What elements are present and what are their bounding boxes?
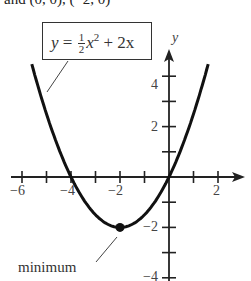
equation-label-box: y = 12x2 + 2x [42,22,152,60]
y-tick-label: −4 [143,269,158,281]
y-tick-label: 2 [151,119,158,135]
equation-leader-line [47,61,68,92]
minimum-label: minimum [18,259,76,276]
y-tick-label: 4 [151,77,158,93]
x-tick-label: −2 [108,183,123,199]
x-tick-label: 2 [213,183,220,199]
equation-text: y = 12x2 + 2x [51,31,134,55]
y-axis-label: y [172,30,178,46]
fraction: 12 [78,32,86,55]
x-tick-label: −4 [60,183,75,199]
y-tick-label: −2 [143,219,158,235]
x-tick-label: −6 [10,183,25,199]
minimum-point [116,223,125,232]
minimum-leader-line [96,237,117,262]
parabola-curve [32,64,208,227]
